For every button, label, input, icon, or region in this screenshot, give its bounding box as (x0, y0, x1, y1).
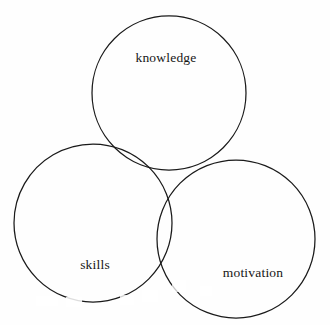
scan-fade-overlay-left (36, 296, 58, 306)
three-circle-venn-diagram: knowledge skills motivation (0, 0, 330, 325)
circle-label-knowledge: knowledge (1, 50, 330, 66)
scan-fade-overlay-right-2 (200, 286, 212, 296)
circle-label-motivation: motivation (176, 265, 330, 281)
circle-label-skills: skills (0, 257, 190, 273)
scan-fade-overlay-right (172, 280, 186, 292)
circle-motivation[interactable] (157, 160, 315, 318)
scan-fade-overlay-left-4 (142, 290, 158, 302)
scan-fade-overlay-left-2 (66, 297, 82, 307)
scan-fade-overlay-left-3 (120, 295, 134, 305)
